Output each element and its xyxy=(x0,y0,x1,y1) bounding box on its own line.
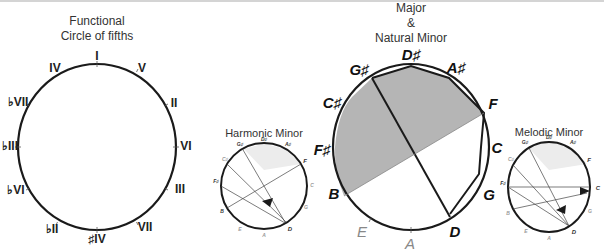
major-label-Dsharp: D♯ xyxy=(402,46,422,63)
label-flat-VI: ♭VI xyxy=(7,183,24,197)
hm-label-Dsharp: D♯ xyxy=(261,136,268,142)
hm-label-D: D xyxy=(288,226,293,232)
label-I: I xyxy=(95,49,98,63)
mm-label-Dsharp: D♯ xyxy=(546,134,553,140)
label-flat-VII: ♭VII xyxy=(8,95,29,109)
label-II: II xyxy=(171,96,178,110)
major-label-Asharp: A♯ xyxy=(446,59,467,76)
mm-label-Csharp: C♯ xyxy=(508,156,515,162)
melodic-arrowhead-1 xyxy=(556,205,566,214)
major-natural-minor-group: Major & Natural Minor D♯ A♯ F C G D A E … xyxy=(314,1,504,252)
major-label-F: F xyxy=(488,95,498,112)
mm-label-D: D xyxy=(572,229,577,235)
major-label-Fsharp: F♯ xyxy=(314,141,332,158)
melodic-minor-group: Melodic Minor D♯ A♯ F C G D A E B F♯ C♯ … xyxy=(500,126,601,241)
mm-label-G: G xyxy=(588,208,592,214)
label-sharp-IV: ♯IV xyxy=(88,232,105,246)
label-VII: VII xyxy=(138,220,153,234)
mm-label-Asharp: A♯ xyxy=(569,139,577,145)
mm-label-A: A xyxy=(546,235,551,241)
mm-label-F: F xyxy=(587,157,591,163)
hm-label-Csharp: C♯ xyxy=(222,156,229,162)
major-label-Gsharp: G♯ xyxy=(349,61,370,78)
hm-label-F: F xyxy=(303,158,307,164)
mm-label-E: E xyxy=(524,228,528,234)
mm-label-Gsharp: G♯ xyxy=(522,139,529,145)
circles-diagram: Functional Circle of fifths I V II VI II… xyxy=(0,0,604,252)
label-flat-III: ♭III xyxy=(2,139,18,153)
label-VI: VI xyxy=(180,139,191,153)
functional-circle-group: Functional Circle of fifths I V II VI II… xyxy=(2,14,192,246)
label-III: III xyxy=(175,182,185,196)
major-label-A: A xyxy=(404,235,415,252)
major-label-B: B xyxy=(329,185,340,202)
label-flat-II: ♭II xyxy=(46,222,59,236)
major-label-C: C xyxy=(492,139,504,156)
hm-label-A: A xyxy=(261,232,266,238)
functional-title-line2: Circle of fifths xyxy=(61,29,134,43)
mm-label-Fsharp: F♯ xyxy=(500,180,506,186)
major-label-G: G xyxy=(483,186,495,203)
functional-circle xyxy=(18,64,176,230)
functional-ticks xyxy=(15,61,179,233)
hm-label-G: G xyxy=(304,204,308,210)
hm-label-Fsharp: F♯ xyxy=(213,178,219,184)
harmonic-arrowhead xyxy=(262,198,273,207)
major-label-Csharp: C♯ xyxy=(323,94,343,111)
major-label-E: E xyxy=(357,223,368,240)
label-IV: IV xyxy=(49,61,60,75)
hm-label-B: B xyxy=(220,208,224,214)
functional-title-line1: Functional xyxy=(69,14,124,28)
melodic-arrowhead-2 xyxy=(580,187,590,195)
hm-label-E: E xyxy=(238,226,242,232)
hm-label-C: C xyxy=(310,182,314,188)
hm-label-Gsharp: G♯ xyxy=(237,141,244,147)
mm-label-C: C xyxy=(596,185,601,191)
mm-label-B: B xyxy=(506,210,510,216)
harmonic-minor-group: Harmonic Minor D♯ A♯ F C G D A E B F♯ C♯… xyxy=(213,127,314,238)
major-title-line1: Major xyxy=(396,1,426,15)
major-title-line2: & xyxy=(407,16,415,30)
hm-label-Asharp: A♯ xyxy=(284,141,292,147)
label-V: V xyxy=(138,61,146,75)
major-title-line3: Natural Minor xyxy=(375,31,447,45)
major-label-D: D xyxy=(450,223,461,240)
